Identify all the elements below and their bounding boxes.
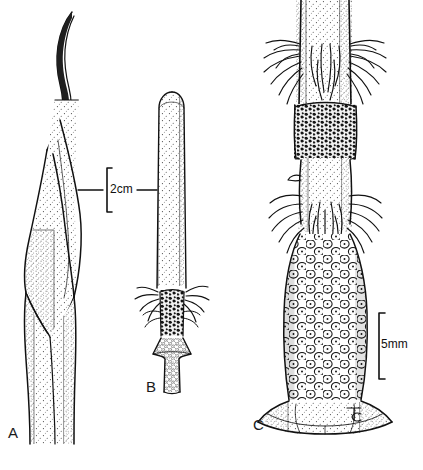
- plate-artwork: [0, 0, 423, 470]
- figure-label-a: A: [8, 424, 18, 441]
- figure-c-artwork: [254, 0, 396, 438]
- scale-bar-label-2cm: 2cm: [110, 182, 133, 196]
- illustration-plate: A B C 2cm 5mm: [0, 0, 423, 470]
- figure-b-artwork: [135, 88, 209, 396]
- scale-bar-label-5mm: 5mm: [381, 337, 408, 351]
- figure-a-artwork: [18, 12, 100, 455]
- figure-label-b: B: [146, 378, 156, 395]
- figure-label-c: C: [253, 416, 264, 433]
